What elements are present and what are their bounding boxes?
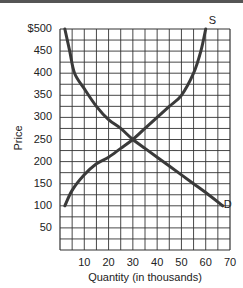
y-tick-label: 250 [0,133,52,145]
x-axis-title: Quantity (in thousands) [60,271,230,283]
x-tick-label: 40 [145,256,169,268]
x-tick-label: 70 [218,256,242,268]
y-axis-title: Price [12,118,24,158]
y-tick-label: 200 [0,155,52,167]
x-tick-label: 20 [97,256,121,268]
demand-curve-label: D [224,198,232,210]
x-tick-label: 60 [194,256,218,268]
x-tick-label: 30 [121,256,145,268]
x-tick-label: 10 [72,256,96,268]
y-tick-label: $500 [0,22,52,34]
y-tick-label: 450 [0,44,52,56]
y-tick-label: 350 [0,88,52,100]
y-tick-label: 300 [0,110,52,122]
x-tick-label: 50 [169,256,193,268]
y-tick-label: 100 [0,199,52,211]
y-tick-label: 150 [0,177,52,189]
y-tick-label: 400 [0,66,52,78]
y-tick-label: 50 [0,221,52,233]
supply-curve-label: S [209,14,216,26]
